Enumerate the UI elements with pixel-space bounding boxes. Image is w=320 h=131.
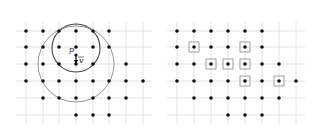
sample-point-dot (91, 96, 95, 100)
sample-point-dot (192, 45, 196, 49)
sample-point-dot (192, 96, 196, 100)
left-sample-points (24, 29, 145, 117)
sample-point-dot (209, 62, 213, 66)
sample-point-dot (175, 79, 179, 83)
sample-point-dot (192, 62, 196, 66)
sample-point-dot (175, 45, 179, 49)
sample-point-dot (91, 62, 95, 66)
sample-point-dot (57, 29, 61, 33)
sample-point-dot (124, 96, 128, 100)
sample-point-dot (74, 29, 78, 33)
sample-point-dot (260, 45, 264, 49)
sample-point-dot (175, 29, 179, 33)
sample-point-dot (260, 79, 264, 83)
diagram-canvas: p v (0, 0, 320, 131)
sample-point-dot (192, 29, 196, 33)
sample-point-dot (124, 79, 128, 83)
point-p-label: p (69, 45, 74, 54)
sample-point-dot (260, 113, 264, 117)
sample-point-dot (260, 29, 264, 33)
sample-point-dot (41, 29, 45, 33)
sample-point-dot (74, 79, 78, 83)
sample-point-dot (243, 29, 247, 33)
right-grid-lines (167, 22, 305, 124)
sample-point-dot (260, 96, 264, 100)
sample-point-dot (277, 62, 281, 66)
sample-point-dot (91, 45, 95, 49)
sample-point-dot (107, 45, 111, 49)
sample-point-dot (41, 45, 45, 49)
sample-point-dot (24, 45, 28, 49)
sample-point-dot (226, 113, 230, 117)
sample-point-dot (226, 29, 230, 33)
sample-point-dot (107, 29, 111, 33)
sample-point-dot (41, 62, 45, 66)
sample-point-dot (107, 79, 111, 83)
sample-point-dot (57, 79, 61, 83)
sample-point-dot (74, 113, 78, 117)
sample-point-dot (24, 62, 28, 66)
sample-point-dot (74, 96, 78, 100)
neighborhood-radius-panel: p v (16, 22, 152, 124)
sample-point-dot (57, 96, 61, 100)
sample-point-dot (141, 79, 145, 83)
sample-point-dot (91, 79, 95, 83)
sample-point-dot (294, 79, 298, 83)
sample-point-dot (209, 45, 213, 49)
sample-point-dot (243, 96, 247, 100)
sample-point-dot (226, 96, 230, 100)
sample-point-dot (57, 62, 61, 66)
sample-point-dot (277, 96, 281, 100)
sample-point-dot (243, 113, 247, 117)
sample-point-dot (192, 79, 196, 83)
sample-point-dot (243, 45, 247, 49)
sample-point-dot (91, 113, 95, 117)
point-p-dot (74, 53, 77, 56)
sample-point-dot (277, 79, 281, 83)
sample-point-dot (243, 79, 247, 83)
sample-point-dot (107, 113, 111, 117)
sample-point-dot (226, 45, 230, 49)
sample-point-dot (41, 96, 45, 100)
sample-point-dot (175, 62, 179, 66)
sample-point-dot (209, 29, 213, 33)
sample-point-dot (24, 29, 28, 33)
sample-point-dot (24, 79, 28, 83)
selected-points-panel (167, 22, 305, 124)
sample-point-dot (91, 29, 95, 33)
sample-point-dot (57, 45, 61, 49)
sample-point-dot (124, 62, 128, 66)
sample-point-dot (226, 62, 230, 66)
sample-point-dot (209, 79, 213, 83)
left-grid-lines (16, 22, 152, 124)
sample-point-dot (74, 45, 78, 49)
sample-point-dot (226, 79, 230, 83)
sample-point-dot (243, 62, 247, 66)
sample-point-dot (41, 79, 45, 83)
sample-point-dot (260, 62, 264, 66)
sample-point-dot (107, 96, 111, 100)
vector-v-label: v (79, 56, 84, 65)
sample-point-dot (209, 96, 213, 100)
